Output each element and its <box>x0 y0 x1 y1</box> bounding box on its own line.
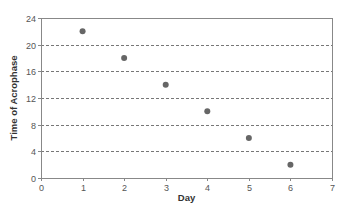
x-tick-label: 5 <box>247 183 252 193</box>
y-tick-label: 0 <box>31 174 36 184</box>
data-point <box>287 162 293 168</box>
y-tick-label: 12 <box>26 94 36 104</box>
x-tick-label: 3 <box>164 183 169 193</box>
y-tick-label: 20 <box>26 41 36 51</box>
y-tick-label: 16 <box>26 67 36 77</box>
x-tick-label: 4 <box>205 183 210 193</box>
y-tick-label: 8 <box>31 121 36 131</box>
x-tick-label: 1 <box>81 183 86 193</box>
data-point <box>80 28 86 34</box>
data-point <box>204 108 210 114</box>
x-axis-title: Day <box>178 192 196 203</box>
y-tick-label: 24 <box>26 14 36 24</box>
gridlines <box>41 46 332 152</box>
x-axis-ticks: 01234567 <box>39 178 335 193</box>
data-point <box>121 55 127 61</box>
x-tick-label: 0 <box>39 183 44 193</box>
y-tick-label: 4 <box>31 147 36 157</box>
scatter-chart: 01234567 04812162024 Day Time of Acropha… <box>0 0 342 212</box>
x-tick-label: 2 <box>122 183 127 193</box>
y-axis-title: Time of Acrophase <box>8 56 19 141</box>
data-point <box>246 135 252 141</box>
x-tick-label: 6 <box>288 183 293 193</box>
x-tick-label: 7 <box>330 183 335 193</box>
y-axis-ticks: 04812162024 <box>26 14 41 184</box>
data-point <box>163 82 169 88</box>
